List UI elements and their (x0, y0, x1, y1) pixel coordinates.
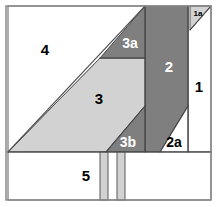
section-label-3: 3 (95, 90, 103, 107)
sections-layer (8, 6, 211, 200)
section-label-2a: 2a (166, 134, 182, 150)
section-label-2: 2 (165, 58, 173, 75)
pattern-diagram: 11a22a33a3b45 (0, 0, 218, 207)
section-5 (8, 152, 211, 200)
section-label-3a: 3a (122, 35, 138, 51)
section-label-3b: 3b (120, 134, 136, 150)
strip-right (117, 152, 125, 200)
section-label-4: 4 (41, 41, 50, 58)
pattern-canvas: 11a22a33a3b45 (0, 0, 218, 207)
section-label-5: 5 (82, 167, 90, 184)
section-label-1: 1 (195, 78, 203, 95)
section-label-1a: 1a (194, 9, 203, 18)
strip-left (100, 152, 108, 200)
